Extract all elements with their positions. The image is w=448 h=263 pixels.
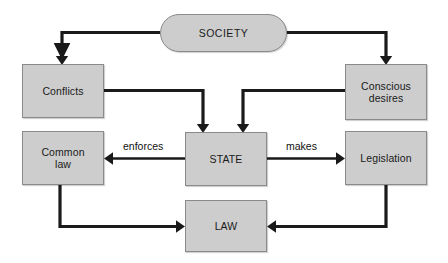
node-state-label: STATE [210,153,243,166]
connector-common-law-to-law [60,185,185,233]
connector-society-to-conscious-desires [287,33,392,66]
edge-label-enforces: enforces [123,140,163,152]
node-legislation-label: Legislation [360,152,411,165]
node-law[interactable]: LAW [185,200,267,252]
edge-label-makes: makes [286,140,317,152]
node-common-law-label: Common law [41,146,84,171]
connector-conflicts-to-state [104,91,209,134]
node-conscious-desires-label: Conscious desires [361,80,411,105]
diagram-canvas: SOCIETY Conflicts Conscious desires Comm… [0,0,448,263]
node-conflicts[interactable]: Conflicts [22,64,104,118]
connector-legislation-to-law [267,185,386,233]
connector-society-to-conflicts [56,33,160,66]
node-conflicts-label: Conflicts [42,85,83,98]
node-state[interactable]: STATE [185,132,267,186]
node-society[interactable]: SOCIETY [160,14,287,52]
node-society-label: SOCIETY [199,27,249,40]
node-conscious-desires[interactable]: Conscious desires [345,64,427,120]
connector-conscious-desires-to-state [237,91,345,134]
node-law-label: LAW [215,220,238,233]
node-common-law[interactable]: Common law [22,131,104,185]
connector-state-to-legislation [267,152,345,164]
node-legislation[interactable]: Legislation [345,131,427,185]
